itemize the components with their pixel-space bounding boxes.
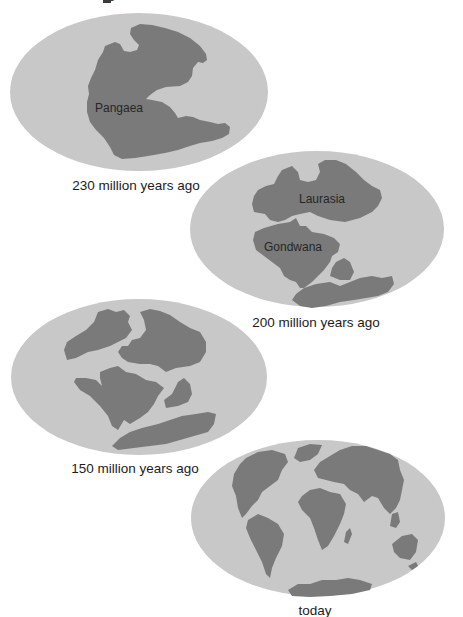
map-panel-150mya: 150 million years ago <box>11 299 267 476</box>
map-panel-200mya: Laurasia Gondwana 200 million years ago <box>190 151 444 330</box>
label-pangaea: Pangaea <box>95 101 143 115</box>
caption-230mya: 230 million years ago <box>72 178 200 193</box>
map-panel-today: today <box>191 440 445 617</box>
caption-today: today <box>298 603 331 617</box>
title-descender-fragment <box>103 0 111 3</box>
caption-200mya: 200 million years ago <box>252 315 380 330</box>
caption-150mya: 150 million years ago <box>71 461 199 476</box>
map-panel-230mya: Pangaea 230 million years ago <box>10 13 268 193</box>
continental-drift-diagram: g Pangaea 230 million years ago Laurasia… <box>0 0 463 617</box>
ocean-ellipse <box>190 151 444 307</box>
label-laurasia: Laurasia <box>299 192 345 206</box>
label-gondwana: Gondwana <box>264 240 322 254</box>
